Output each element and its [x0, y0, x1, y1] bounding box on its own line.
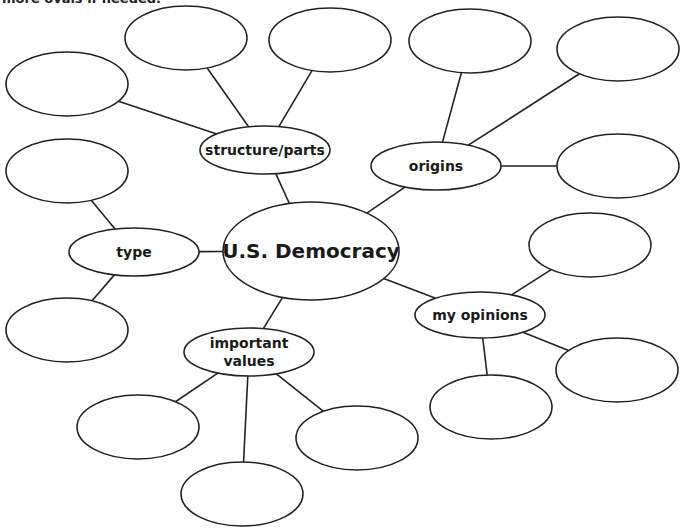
blank-oval-opinions-2[interactable] [556, 338, 678, 402]
link-values-blank-3 [276, 374, 323, 412]
category-label-structure-line: structure/parts [205, 142, 325, 158]
blank-oval-values-1[interactable] [77, 395, 199, 459]
category-label-type-line: type [116, 244, 151, 260]
category-label-type: type [116, 244, 151, 260]
link-type-blank-1 [91, 200, 115, 229]
link-origins-blank-2 [468, 74, 579, 145]
link-center-structure [276, 174, 290, 204]
category-label-values-line: important [210, 335, 289, 351]
category-label-opinions-line: my opinions [432, 307, 528, 323]
link-opinions-blank-3 [483, 338, 487, 375]
link-structure-blank-2 [207, 68, 248, 127]
blank-oval-origins-3[interactable] [557, 134, 679, 198]
link-center-opinions [384, 279, 436, 299]
link-type-blank-2 [92, 275, 114, 301]
link-structure-blank-1 [118, 101, 216, 134]
center-label-line: U.S. Democracy [222, 239, 400, 263]
blank-oval-opinions-3[interactable] [430, 375, 552, 439]
link-center-values [263, 297, 282, 328]
concept-map: structure/partsoriginstypemy opinionsimp… [0, 0, 687, 531]
link-values-blank-2 [244, 376, 248, 462]
category-label-values-line: values [223, 353, 274, 369]
blank-oval-structure-1[interactable] [6, 52, 128, 116]
category-label-origins: origins [409, 158, 463, 174]
blank-oval-structure-3[interactable] [269, 8, 391, 72]
category-label-opinions: my opinions [432, 307, 528, 323]
link-opinions-blank-1 [512, 270, 552, 295]
blank-oval-values-2[interactable] [181, 462, 303, 526]
category-label-structure: structure/parts [205, 142, 325, 158]
blank-oval-values-3[interactable] [296, 406, 418, 470]
blank-oval-opinions-1[interactable] [529, 213, 651, 277]
center-label: U.S. Democracy [222, 239, 400, 263]
category-label-origins-line: origins [409, 158, 463, 174]
link-opinions-blank-2 [523, 332, 569, 350]
link-origins-blank-1 [442, 73, 461, 142]
blank-oval-structure-2[interactable] [125, 6, 247, 70]
blank-oval-type-2[interactable] [6, 298, 128, 362]
blank-oval-origins-1[interactable] [409, 9, 531, 73]
blank-oval-type-1[interactable] [6, 139, 128, 203]
link-center-origins [367, 187, 405, 213]
link-values-blank-1 [175, 373, 217, 402]
link-structure-blank-3 [279, 71, 312, 127]
blank-oval-origins-2[interactable] [557, 17, 679, 81]
